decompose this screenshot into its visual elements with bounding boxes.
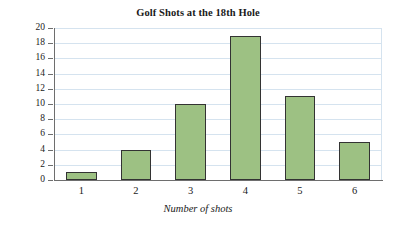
x-tick-label: 4 [218,185,273,196]
chart-screenshot: Golf Shots at the 18th Hole Number of go… [0,0,396,228]
chart-title: Golf Shots at the 18th Hole [0,7,396,18]
y-tick-label: 14 [20,68,45,78]
x-tick-label: 5 [273,185,328,196]
y-tick-label: 4 [20,144,45,154]
y-tick-label: 2 [20,159,45,169]
y-axis-line [54,28,55,181]
y-tick-label: 20 [20,22,45,32]
x-tick-label: 1 [54,185,109,196]
bar [339,142,370,180]
y-tick-mark [48,104,53,105]
plot-area [54,28,382,180]
bar [66,172,97,180]
x-tick-label: 2 [109,185,164,196]
x-tick-label: 6 [327,185,382,196]
y-tick-label: 10 [20,98,45,108]
x-axis-line [54,180,383,181]
y-tick-mark [48,119,53,120]
y-tick-mark [48,89,53,90]
y-tick-label: 16 [20,52,45,62]
bar [285,96,316,180]
y-tick-mark [48,58,53,59]
y-tick-mark [48,180,53,181]
bar-series [54,28,382,180]
y-tick-label: 18 [20,37,45,47]
bar [175,104,206,180]
x-tick-label: 3 [163,185,218,196]
y-tick-label: 6 [20,128,45,138]
y-tick-label: 12 [20,83,45,93]
y-tick-mark [48,74,53,75]
y-tick-mark [48,43,53,44]
y-tick-label: 8 [20,113,45,123]
bar [230,36,261,180]
y-tick-mark [48,165,53,166]
bar [121,150,152,180]
y-tick-label: 0 [20,174,45,184]
y-tick-mark [48,150,53,151]
y-tick-mark [48,134,53,135]
x-axis-label: Number of shots [0,203,396,214]
y-tick-mark [48,28,53,29]
